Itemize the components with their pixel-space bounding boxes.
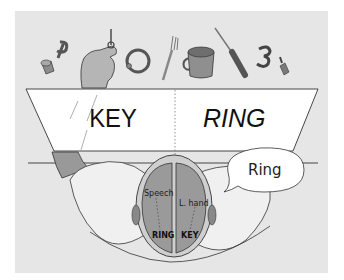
hand-holding-key-icon (81, 29, 117, 88)
screen-word-left: KEY (89, 104, 137, 133)
left-ear (132, 205, 140, 225)
left-shoulder (70, 162, 146, 244)
fork-icon (163, 36, 178, 80)
number-3-icon (257, 47, 270, 67)
left-hemisphere-word: RING (152, 231, 174, 240)
left-hand-label: L. hand (179, 199, 209, 208)
thimble-icon (41, 60, 54, 74)
bottle-icon (280, 57, 289, 75)
letter-p-icon (57, 42, 67, 58)
right-ear (208, 205, 216, 225)
speech-bubble-text: Ring (248, 161, 282, 179)
right-hemisphere-word: KEY (181, 231, 198, 240)
screen-word-right: RING (203, 104, 266, 133)
screwdriver-icon (215, 28, 245, 75)
cup-icon (184, 47, 214, 78)
ring-icon (127, 50, 150, 72)
display-screen (26, 89, 318, 151)
speech-label: Speech (144, 189, 173, 198)
